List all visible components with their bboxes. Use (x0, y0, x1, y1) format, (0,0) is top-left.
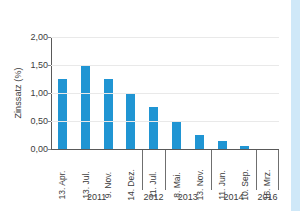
group-separator (142, 150, 143, 190)
x-axis-group-label: 2016 (256, 191, 279, 204)
y-axis-tick-mark (48, 93, 51, 94)
gridline (51, 65, 279, 66)
group-separator (165, 150, 166, 190)
x-axis-category-label: 10. Sep. (233, 150, 256, 190)
x-axis-category-label: 8. Mai. (165, 150, 188, 190)
y-axis-tick-label: 1,00 (30, 87, 48, 99)
y-axis-title: Zinssatz (%) (11, 35, 25, 151)
bar[interactable] (218, 141, 227, 149)
y-axis-tick-labels: 0,000,501,001,502,00 (24, 31, 50, 155)
page-edge-strip (289, 0, 300, 211)
x-axis-category-label: 16. Mrz. (256, 150, 279, 190)
gridline (51, 121, 279, 122)
y-axis-tick-label: 2,00 (30, 31, 48, 43)
x-axis-category-label: 14. Dez. (119, 150, 142, 190)
x-axis-category-label: 11. Jul. (142, 150, 165, 190)
bar[interactable] (172, 121, 181, 149)
x-axis-category-label: 13. Jul. (74, 150, 97, 190)
x-axis-group-label: 2014 (211, 191, 257, 204)
y-axis-tick-label: 0,50 (30, 115, 48, 127)
group-separator (256, 150, 257, 190)
x-axis-group-label: 2013 (165, 191, 211, 204)
x-axis-category-label: 13. Nov. (188, 150, 211, 190)
x-axis-category-labels: 13. Apr.13. Jul.9. Nov.14. Dez.11. Jul.8… (51, 150, 279, 190)
bar[interactable] (149, 107, 158, 149)
group-separator (211, 150, 212, 190)
y-axis-title-text: Zinssatz (%) (13, 67, 23, 118)
x-axis-group-labels: 20112012201320142016 (51, 190, 279, 206)
x-axis-category-label: 9. Nov. (97, 150, 120, 190)
x-axis-category-label: 13. Apr. (51, 150, 74, 190)
y-axis-tick-label: 1,50 (30, 59, 48, 71)
x-axis-group-label: 2011 (51, 191, 142, 204)
x-axis-group-label: 2012 (142, 191, 165, 204)
bar[interactable] (81, 65, 90, 149)
plot-area (51, 37, 279, 150)
bar[interactable] (104, 79, 113, 149)
bar[interactable] (240, 146, 249, 149)
gridline (51, 93, 279, 94)
y-axis-tick-mark (48, 65, 51, 66)
bar[interactable] (195, 135, 204, 149)
bar[interactable] (58, 79, 67, 149)
bar-chart-figure: Zinssatz (%) 0,000,501,001,502,00 13. Ap… (0, 0, 289, 211)
x-axis-category-label: 11. Jun. (211, 150, 234, 190)
y-axis-tick-mark (48, 121, 51, 122)
page-edge-gap (289, 0, 291, 211)
y-axis-tick-mark (48, 37, 51, 38)
y-axis-tick-label: 0,00 (30, 143, 48, 155)
group-separator (278, 150, 279, 190)
gridline (51, 37, 279, 38)
